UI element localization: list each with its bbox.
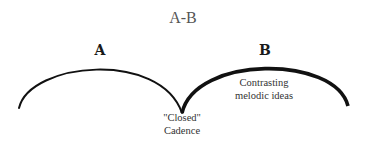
section-b-description: Contrasting melodic ideas: [218, 77, 310, 102]
cadence-line-1: "Closed": [146, 112, 218, 125]
diagram-title: A-B: [0, 9, 366, 27]
form-diagram: A-B A B Contrasting melodic ideas "Close…: [0, 0, 366, 143]
section-a-label: A: [85, 42, 115, 58]
arc-a: [19, 70, 182, 113]
section-b-label: B: [250, 42, 280, 58]
description-line-2: melodic ideas: [218, 90, 310, 103]
cadence-line-2: Cadence: [146, 125, 218, 138]
description-line-1: Contrasting: [218, 77, 310, 90]
cadence-label: "Closed" Cadence: [146, 112, 218, 137]
